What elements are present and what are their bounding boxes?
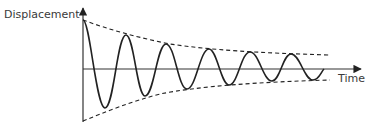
damped-oscillation-diagram: Displacement Time <box>0 0 379 130</box>
lower-envelope <box>83 80 330 121</box>
y-axis-label: Displacement <box>4 8 80 21</box>
x-axis-label: Time <box>338 72 365 85</box>
displacement-curve <box>83 20 324 108</box>
